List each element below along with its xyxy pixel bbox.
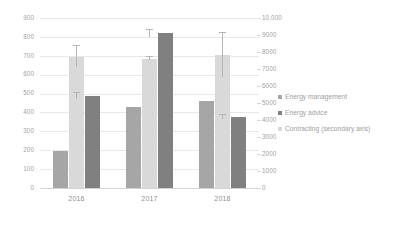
primary-y-tick-label: 700 (0, 53, 34, 59)
primary-y-tick-label: 200 (0, 147, 34, 153)
primary-y-tick-label: 800 (0, 34, 34, 40)
error-bar (76, 93, 77, 99)
square-swatch-icon (278, 111, 282, 115)
bar[interactable] (126, 107, 141, 188)
secondary-y-tick-label: 1000 (262, 168, 302, 174)
error-bar-cap (73, 92, 80, 93)
secondary-y-tick-label: 6000 (262, 83, 302, 89)
error-bar-cap (146, 29, 153, 30)
square-swatch-icon (278, 95, 282, 99)
primary-y-tick-label: 300 (0, 128, 34, 134)
bar[interactable] (199, 101, 214, 188)
primary-y-tick-label: 500 (0, 90, 34, 96)
legend-item-label: Contracting (secondary axis) (285, 126, 370, 133)
secondary-y-tick-label: 9000 (262, 32, 302, 38)
x-axis-labels: 201620172018 (40, 192, 259, 208)
bar[interactable] (231, 117, 246, 188)
primary-y-tick-label: 900 (0, 15, 34, 21)
bar[interactable] (85, 96, 100, 188)
x-axis-category-label: 2018 (186, 195, 259, 202)
error-bar (76, 46, 77, 67)
error-bar-cap (146, 56, 153, 57)
error-bar-cap (219, 32, 226, 33)
legend-item-label: Energy management (285, 94, 347, 101)
bar-group (186, 18, 259, 188)
legend-item[interactable]: Energy advice (278, 109, 396, 117)
primary-y-axis: 0100200300400500600700800900 (0, 18, 36, 188)
error-bar (149, 30, 150, 37)
x-axis-category-label: 2017 (113, 195, 186, 202)
legend-item-label: Energy advice (285, 110, 327, 117)
error-bar (222, 115, 223, 119)
secondary-y-tick-label: 2000 (262, 151, 302, 157)
bar-group (40, 18, 113, 188)
x-axis-category-label: 2016 (40, 195, 113, 202)
bar[interactable] (142, 59, 157, 188)
chart-legend: Energy managementEnergy adviceContractin… (278, 93, 396, 141)
primary-y-tick-label: 100 (0, 166, 34, 172)
axis-baseline (40, 188, 259, 189)
error-bar-cap (73, 45, 80, 46)
error-bar-cap (219, 114, 226, 115)
secondary-y-tick-label: 0 (262, 185, 302, 191)
secondary-y-tick-label: 7000 (262, 66, 302, 72)
secondary-y-tick-label: 10,000 (262, 15, 302, 21)
primary-y-tick-label: 600 (0, 71, 34, 77)
chart-container: 0100200300400500600700800900 01000200030… (0, 0, 399, 225)
primary-y-tick-label: 400 (0, 109, 34, 115)
bar[interactable] (53, 151, 68, 188)
legend-item[interactable]: Energy management (278, 93, 396, 101)
bar[interactable] (69, 57, 84, 188)
primary-y-tick-label: 0 (0, 185, 34, 191)
error-bar (222, 33, 223, 76)
square-swatch-icon (278, 127, 282, 131)
plot-area (40, 18, 259, 188)
error-bar (149, 57, 150, 60)
bar[interactable] (158, 33, 173, 188)
secondary-y-tick-label: 8000 (262, 49, 302, 55)
bar-group (113, 18, 186, 188)
legend-item[interactable]: Contracting (secondary axis) (278, 125, 396, 133)
